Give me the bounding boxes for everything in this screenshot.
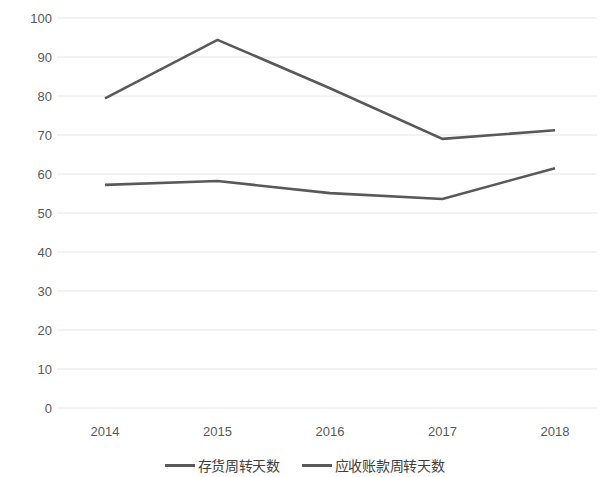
x-axis-tick-label: 2017 [428,424,457,439]
chart-legend: 存货周转天数应收账款周转天数 [0,455,609,475]
legend-line-swatch-icon [165,464,195,467]
y-axis-tick-label: 90 [38,51,52,64]
y-axis-tick-label: 40 [38,246,52,259]
y-axis-tick-label: 10 [38,363,52,376]
x-axis-tick-label: 2018 [541,424,570,439]
chart-plot-area [0,0,609,477]
y-axis-tick-label: 100 [30,12,52,25]
y-axis-tick-labels: 0102030405060708090100 [10,0,52,477]
legend-label: 应收账款周转天数 [335,455,445,475]
y-axis-tick-label: 20 [38,324,52,337]
legend-item[interactable]: 应收账款周转天数 [302,455,445,475]
y-axis-tick-label: 70 [38,129,52,142]
y-axis-tick-label: 60 [38,168,52,181]
legend-line-swatch-icon [302,464,332,467]
x-axis-tick-label: 2014 [91,424,120,439]
x-axis-tick-label: 2016 [316,424,345,439]
series-lines [105,40,555,199]
x-axis-tick-label: 2015 [203,424,232,439]
legend-item[interactable]: 存货周转天数 [165,455,280,475]
y-axis-tick-label: 0 [45,402,52,415]
y-axis-tick-label: 50 [38,207,52,220]
gridlines [57,18,597,408]
legend-label: 存货周转天数 [198,455,280,475]
y-axis-tick-label: 80 [38,90,52,103]
line-chart: 0102030405060708090100 20142015201620172… [0,0,609,477]
series-line-1 [105,40,555,139]
series-line-2 [105,168,555,199]
y-axis-tick-label: 30 [38,285,52,298]
